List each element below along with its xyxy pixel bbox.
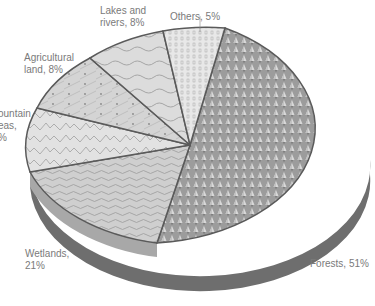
label-line: Forests, 51%	[310, 258, 369, 270]
label-lakes-rivers: Lakes and rivers, 8%	[100, 5, 146, 29]
label-line: Others, 5%	[170, 11, 220, 23]
label-line: 21%	[25, 260, 69, 272]
label-forests: Forests, 51%	[310, 258, 369, 270]
label-agricultural-land: Agricultural land, 8%	[24, 52, 74, 76]
label-line: %	[0, 132, 31, 144]
label-line: ountain	[0, 108, 31, 120]
label-mountain-areas: ountain eas, %	[0, 108, 31, 144]
label-line: Wetlands,	[25, 248, 69, 260]
label-line: Agricultural	[24, 52, 74, 64]
label-wetlands: Wetlands, 21%	[25, 248, 69, 272]
label-line: Lakes and	[100, 5, 146, 17]
label-others: Others, 5%	[170, 11, 220, 23]
label-line: rivers, 8%	[100, 17, 146, 29]
label-line: land, 8%	[24, 64, 74, 76]
label-line: eas,	[0, 120, 31, 132]
